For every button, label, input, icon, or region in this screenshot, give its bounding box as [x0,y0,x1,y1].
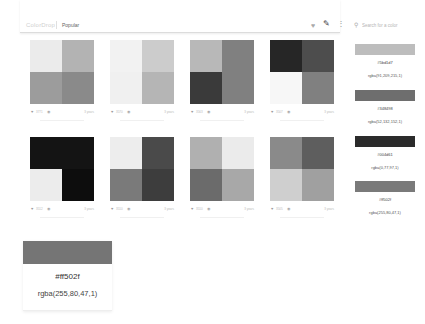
color-swatch[interactable] [222,40,254,72]
more-vertical-icon[interactable]: ⋮ [337,20,345,28]
rgba-value: rgba(255,80,47,1) [355,210,415,215]
heart-icon[interactable]: ♥ [271,109,273,114]
color-swatch[interactable] [355,44,415,55]
logo-separator [56,21,57,29]
color-swatch[interactable] [110,137,142,169]
eye-icon[interactable]: ◉ [47,206,50,211]
heart-icon[interactable]: ♥ [311,22,315,29]
color-swatch[interactable] [190,40,222,72]
color-swatch[interactable] [142,40,174,72]
color-swatch[interactable] [355,181,415,192]
color-swatch[interactable] [62,72,94,104]
color-swatch[interactable] [142,72,174,104]
color-swatch[interactable] [110,169,142,201]
palette-swatches[interactable] [110,137,174,201]
color-swatch[interactable] [355,90,415,101]
heart-icon[interactable]: ♥ [191,109,193,114]
eye-icon[interactable]: ◉ [207,109,210,114]
color-swatch[interactable] [302,137,334,169]
color-swatch[interactable] [270,72,302,104]
palette-card[interactable]: ♥3563◉3 years [190,40,254,104]
heart-icon[interactable]: ♥ [31,109,33,114]
side-color-item[interactable]: #5bd1d7 rgba(91,209,215,1) [355,44,415,78]
color-swatch[interactable] [30,72,62,104]
palette-date: 3 years [324,207,334,211]
color-swatch[interactable] [302,72,334,104]
palette-meta: ♥3505◉3 years [270,206,334,212]
color-swatch[interactable] [355,136,415,147]
like-count: 3771 [36,110,43,114]
heart-icon[interactable]: ♥ [271,206,273,211]
palette-meta: ♥3570◉3 years [110,109,174,115]
palette-card[interactable]: ♥3510◉3 years [190,137,254,201]
rgba-value[interactable]: rgba(255,80,47,1) [23,289,112,298]
color-swatch[interactable] [270,40,302,72]
color-detail-popup: #ff502f rgba(255,80,47,1) [23,241,112,311]
palette-meta: ♥3507◉3 years [270,109,334,115]
color-swatch[interactable] [190,137,222,169]
heart-icon[interactable]: ♥ [111,206,113,211]
heart-icon[interactable]: ♥ [111,109,113,114]
color-swatch[interactable] [110,72,142,104]
eye-icon[interactable]: ◉ [127,206,130,211]
palette-swatches[interactable] [270,40,334,104]
color-swatch[interactable] [270,137,302,169]
palette-card[interactable]: ♥3505◉3 years [270,137,334,201]
palette-card[interactable]: ♥3507◉3 years [270,40,334,104]
palette-card[interactable]: ♥3512◉3 years [30,137,94,201]
color-swatch[interactable] [62,40,94,72]
side-color-item[interactable]: #ff502f rgba(255,80,47,1) [355,181,415,215]
palette-swatches[interactable] [30,137,94,201]
color-swatch[interactable] [302,40,334,72]
heart-icon[interactable]: ♥ [31,206,33,211]
palette-card[interactable]: ♥3510◉3 years [110,137,174,201]
color-swatch[interactable] [142,137,174,169]
palette-date: 3 years [164,110,174,114]
heart-icon[interactable]: ♥ [191,206,193,211]
side-color-item[interactable]: #004d61 rgba(0,77,97,1) [355,136,415,170]
color-swatch[interactable] [222,169,254,201]
rgba-value: rgba(0,77,97,1) [355,165,415,170]
palette-card[interactable]: ♥3771◉3 years [30,40,94,104]
app-logo[interactable]: ColorDrop [26,22,55,28]
palette-swatches[interactable] [190,40,254,104]
palette-card[interactable]: ♥3570◉3 years [110,40,174,104]
color-swatch[interactable] [30,40,62,72]
card-divider [120,217,164,218]
eye-icon[interactable]: ◉ [127,109,130,114]
brush-icon[interactable]: ✎ [323,20,330,28]
color-swatch[interactable] [30,169,62,201]
palette-swatches[interactable] [30,40,94,104]
palette-swatches[interactable] [270,137,334,201]
side-color-item[interactable]: #348498 rgba(52,132,152,1) [355,90,415,124]
search-icon: ⚲ [354,22,358,28]
hex-value: #348498 [355,106,415,111]
color-swatch[interactable] [190,169,222,201]
palette-meta: ♥3510◉3 years [110,206,174,212]
color-swatch[interactable] [110,40,142,72]
palette-swatches[interactable] [190,137,254,201]
color-swatch[interactable] [62,169,94,201]
card-divider [280,120,324,121]
rgba-value: rgba(91,209,215,1) [355,73,415,78]
eye-icon[interactable]: ◉ [47,109,50,114]
search-input[interactable] [362,21,420,30]
nav-popular-dropdown[interactable]: Popular [62,22,79,28]
card-divider [40,120,84,121]
color-swatch[interactable] [62,137,94,169]
hex-value[interactable]: #ff502f [23,272,112,281]
color-swatch[interactable] [190,72,222,104]
palette-swatches[interactable] [110,40,174,104]
popup-divider [23,310,112,311]
color-swatch[interactable] [270,169,302,201]
eye-icon[interactable]: ◉ [287,109,290,114]
color-swatch[interactable] [23,241,112,264]
palette-meta: ♥3771◉3 years [30,109,94,115]
color-swatch[interactable] [30,137,62,169]
color-swatch[interactable] [222,72,254,104]
color-swatch[interactable] [302,169,334,201]
eye-icon[interactable]: ◉ [207,206,210,211]
color-swatch[interactable] [142,169,174,201]
color-swatch[interactable] [222,137,254,169]
eye-icon[interactable]: ◉ [287,206,290,211]
